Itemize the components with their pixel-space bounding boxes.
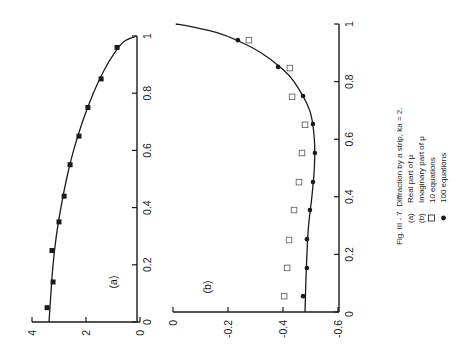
panel-b-x-ticks: 00.20.40.60.81 xyxy=(334,21,355,317)
data-point-open-square xyxy=(299,150,305,156)
data-point-square xyxy=(62,194,67,199)
x-tick-label: 0.8 xyxy=(141,86,153,101)
panel-a-points xyxy=(45,45,120,310)
data-point-dot xyxy=(301,94,306,99)
x-tick-label: 1 xyxy=(141,33,153,39)
panel-a-y-ticks: 024 xyxy=(26,317,146,336)
panel-a-x-ticks: 00.20.40.60.81 xyxy=(132,33,153,325)
caption-key-a: (a) xyxy=(406,213,415,223)
data-point-open-square xyxy=(296,179,302,185)
data-point-open-square xyxy=(302,122,308,128)
data-point-dot xyxy=(305,266,310,271)
panel-a: 00.20.40.60.81 024 (a) xyxy=(26,33,153,336)
caption-text-10eq: 10 equations xyxy=(428,157,437,203)
y-tick-label: 0 xyxy=(134,330,146,336)
figure: 00.20.40.60.81 024 (a) 00.20.40.60.81 0-… xyxy=(0,0,462,347)
data-point-dot xyxy=(308,208,313,213)
data-point-square xyxy=(115,45,120,50)
y-tick-label: -0.2 xyxy=(222,320,234,338)
data-point-dot xyxy=(236,38,241,43)
caption-filled-dot-icon xyxy=(441,216,446,221)
x-tick-label: 0.4 xyxy=(141,200,153,215)
data-point-open-square xyxy=(246,37,252,43)
figure-caption: Fig. III - 7. Diffraction by a strip, ka… xyxy=(395,108,448,245)
data-point-square xyxy=(45,305,50,310)
x-tick-label: 0.2 xyxy=(141,257,153,272)
x-tick-label: 0.6 xyxy=(343,132,355,147)
panel-b-dot-points xyxy=(236,38,318,299)
data-point-open-square xyxy=(287,65,293,71)
caption-text-b: Imaginary part of μ xyxy=(417,136,426,203)
data-point-square xyxy=(49,248,54,253)
caption-text-a: Real part of μ xyxy=(406,154,415,203)
y-tick-label: -0.6 xyxy=(332,320,344,338)
panel-b: 00.20.40.60.81 0-0.2-0.4-0.6 (b) xyxy=(167,21,355,338)
data-point-dot xyxy=(301,294,306,299)
caption-title: Fig. III - 7. Diffraction by a strip, ka… xyxy=(395,108,404,245)
panel-b-curve xyxy=(176,24,315,312)
data-point-square xyxy=(76,134,81,139)
data-point-dot xyxy=(276,65,281,70)
data-point-square xyxy=(57,219,62,224)
data-point-dot xyxy=(313,151,318,156)
x-tick-label: 0 xyxy=(141,319,153,325)
data-point-dot xyxy=(311,180,316,185)
data-point-open-square xyxy=(284,265,290,271)
y-tick-label: 0 xyxy=(167,320,179,326)
data-point-open-square xyxy=(281,293,287,299)
x-tick-label: 0.6 xyxy=(141,143,153,158)
x-tick-label: 0 xyxy=(343,311,355,317)
caption-open-square-icon xyxy=(429,215,435,221)
y-tick-label: 4 xyxy=(26,330,38,336)
x-tick-label: 1 xyxy=(343,21,355,27)
x-tick-label: 0.4 xyxy=(343,189,355,204)
panel-b-label: (b) xyxy=(201,281,213,294)
panel-a-curve xyxy=(49,36,137,322)
x-tick-label: 0.8 xyxy=(343,74,355,89)
data-point-open-square xyxy=(289,94,295,100)
data-point-square xyxy=(85,105,90,110)
caption-key-b: (b) xyxy=(417,213,426,223)
y-tick-label: -0.4 xyxy=(277,320,289,338)
data-point-dot xyxy=(305,237,310,242)
caption-text-100eq: 100 equations xyxy=(439,153,448,203)
panel-a-label: (a) xyxy=(107,276,119,289)
data-point-open-square xyxy=(291,207,297,213)
data-point-square xyxy=(68,162,73,167)
data-point-open-square xyxy=(286,237,292,243)
y-tick-label: 2 xyxy=(80,330,92,336)
data-point-dot xyxy=(311,122,316,127)
panel-b-square-points xyxy=(246,37,308,299)
data-point-square xyxy=(51,279,56,284)
x-tick-label: 0.2 xyxy=(343,247,355,262)
data-point-square xyxy=(99,76,104,81)
